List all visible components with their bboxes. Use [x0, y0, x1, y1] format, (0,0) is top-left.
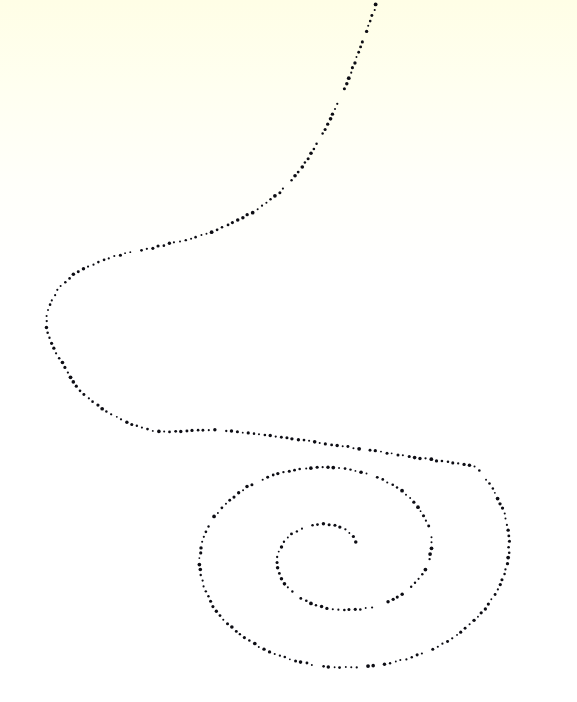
spiral-dot	[120, 418, 122, 420]
spiral-dot	[205, 530, 208, 533]
spiral-dot	[459, 631, 462, 634]
spiral-dot	[58, 357, 61, 360]
spiral-dot	[365, 607, 367, 609]
spiral-dot	[324, 128, 327, 131]
spiral-dot	[414, 582, 416, 584]
spiral-dot	[200, 234, 202, 236]
spiral-dot	[437, 646, 439, 648]
spiral-dot	[294, 659, 297, 662]
spiral-dot	[392, 598, 395, 601]
spiral-dot	[500, 578, 503, 581]
spiral-dot	[174, 430, 177, 433]
spiral-dot	[391, 483, 394, 486]
spiral-dot	[386, 481, 388, 483]
spiral-dot	[280, 577, 283, 580]
spiral-dot	[279, 655, 281, 657]
spiral-dot	[265, 202, 267, 204]
spiral-dot	[348, 532, 350, 534]
spiral-dot	[243, 636, 246, 639]
spiral-dot	[48, 337, 50, 339]
spiral-dot	[402, 454, 404, 456]
spiral-dot	[47, 309, 49, 311]
spiral-dot	[105, 410, 107, 412]
spiral-dot	[413, 456, 417, 460]
spiral-dot	[235, 630, 238, 633]
spiral-dot	[206, 233, 208, 235]
spiral-dot	[324, 442, 327, 445]
spiral-dot	[157, 430, 161, 434]
spiral-dot	[464, 627, 467, 630]
spiral-dot	[338, 467, 340, 469]
spiral-dot	[494, 492, 496, 494]
spiral-dot	[241, 216, 244, 219]
spiral-dot	[82, 267, 85, 270]
spiral-dot	[46, 320, 48, 322]
spiral-dot	[366, 664, 370, 668]
spiral-dot	[410, 586, 412, 588]
spiral-dot	[421, 652, 423, 654]
spiral-dot	[250, 483, 253, 486]
spiral-dot	[357, 51, 360, 54]
spiral-dot	[77, 270, 80, 273]
spiral-dot	[262, 479, 264, 481]
spiral-dot	[383, 662, 386, 665]
spiral-dot	[253, 432, 256, 435]
spiral-dot	[335, 444, 338, 447]
spiral-dot	[207, 525, 209, 527]
spiral-dot	[316, 523, 319, 526]
spiral-dot	[198, 557, 200, 559]
spiral-dot	[345, 82, 348, 85]
spiral-dot	[201, 579, 203, 581]
spiral-dot	[386, 600, 389, 603]
spiral-dot	[141, 427, 143, 429]
spiral-dot	[276, 556, 278, 558]
spiral-dot	[63, 366, 66, 369]
spiral-dot	[290, 437, 293, 440]
spiral-dot	[207, 595, 209, 597]
spiral-dot	[222, 619, 224, 621]
spiral-dot	[352, 447, 354, 449]
spiral-dot	[457, 462, 459, 464]
spiral-dot	[55, 352, 57, 354]
spiral-dot	[306, 662, 309, 665]
spiral-dot	[331, 466, 335, 470]
spiral-dot	[365, 30, 368, 33]
spiral-dot	[113, 255, 115, 257]
spiral-dot	[146, 248, 148, 250]
spiral-dot	[309, 152, 313, 156]
spiral-dot	[350, 666, 352, 668]
spiral-dot	[369, 449, 372, 452]
spiral-dot	[61, 361, 65, 365]
spiral-dot	[506, 556, 510, 560]
spiral-dot	[100, 407, 104, 411]
spiral-dot	[359, 470, 363, 474]
spiral-dot	[334, 666, 336, 668]
spiral-dot	[456, 634, 458, 636]
spiral-dot	[298, 468, 301, 471]
spiral-dot	[108, 257, 110, 259]
spiral-dot	[163, 430, 165, 432]
spiral-dot	[297, 438, 300, 441]
spiral-dot	[319, 442, 321, 444]
spiral-dot	[386, 452, 389, 455]
spiral-dot	[282, 187, 284, 189]
spiral-dot	[488, 482, 491, 485]
spiral-dot	[269, 434, 272, 437]
spiral-dot	[247, 431, 250, 434]
spiral-dot	[283, 582, 287, 586]
spiral-dot	[245, 213, 248, 216]
spiral-dot	[381, 478, 384, 481]
spiral-dot	[56, 289, 58, 291]
spiral-dot	[231, 221, 234, 224]
spiral-dot	[497, 588, 499, 590]
spiral-dot	[311, 664, 313, 666]
spiral-dot	[411, 656, 413, 658]
spiral-dot	[370, 14, 373, 17]
spiral-dot	[45, 326, 48, 329]
spiral-dot	[257, 208, 259, 210]
spiral-dot	[451, 461, 454, 464]
spiral-dot	[96, 403, 99, 406]
spiral-dot	[269, 198, 271, 200]
spiral-dot	[248, 639, 251, 642]
spiral-dot	[422, 514, 425, 517]
